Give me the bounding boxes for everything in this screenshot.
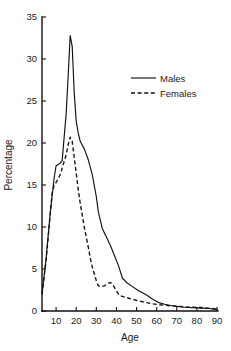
y-tick-label: 25 — [26, 95, 37, 106]
legend-item-females: Females — [131, 88, 197, 99]
chart-legend: Males Females — [131, 73, 197, 99]
y-tick-label: 5 — [32, 263, 37, 274]
y-tick-label: 10 — [26, 221, 37, 232]
y-tick-label: 35 — [26, 11, 37, 22]
y-tick-label: 15 — [26, 179, 37, 190]
series-line-females — [42, 137, 217, 309]
y-tick-label: 30 — [26, 53, 37, 64]
x-tick-label: 40 — [111, 315, 122, 326]
series-group — [42, 35, 217, 309]
x-tick-label: 80 — [192, 315, 203, 326]
chart-container: 05101520253035 102030405060708090 Age Pe… — [0, 0, 231, 351]
legend-label-females: Females — [160, 88, 197, 99]
legend-label-males: Males — [160, 73, 186, 84]
y-tick-label: 0 — [32, 305, 37, 316]
x-tick-label: 60 — [151, 315, 162, 326]
x-tick-label: 30 — [91, 315, 102, 326]
x-tick-label: 50 — [131, 315, 142, 326]
y-tick-label: 20 — [26, 137, 37, 148]
line-chart: 05101520253035 102030405060708090 Age Pe… — [0, 0, 231, 351]
x-tick-label: 10 — [51, 315, 62, 326]
x-tick-label: 70 — [171, 315, 182, 326]
series-line-males — [42, 35, 217, 309]
y-axis-ticks: 05101520253035 — [26, 11, 46, 316]
x-axis-ticks: 102030405060708090 — [51, 307, 222, 326]
x-tick-label: 20 — [71, 315, 82, 326]
x-axis-title: Age — [121, 332, 139, 343]
x-tick-label: 90 — [212, 315, 223, 326]
legend-item-males: Males — [131, 73, 186, 84]
y-axis-title: Percentage — [3, 139, 14, 191]
